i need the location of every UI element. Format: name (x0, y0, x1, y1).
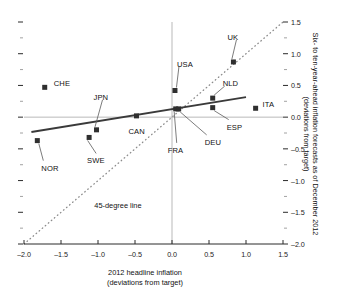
data-point-label: DEU (205, 138, 221, 147)
x-axis-title-line2: (deviations from target) (107, 278, 183, 287)
y-axis-title-line1: Six- to ten-year-ahead inflation forecas… (311, 33, 320, 236)
data-point-marker (134, 113, 139, 118)
data-point-label: ESP (227, 123, 243, 132)
x-axis-tick-label: –0.5 (128, 250, 142, 259)
data-point-label: CHE (54, 79, 70, 88)
x-axis-tick-label: –1.5 (54, 250, 68, 259)
label-leader-line (214, 111, 229, 120)
y-axis-tick-label: 1.5 (291, 18, 301, 27)
x-axis-tick-label: 0.5 (204, 250, 214, 259)
data-point-marker (210, 105, 215, 110)
data-point-marker (210, 96, 215, 101)
data-point-marker (94, 127, 99, 132)
axis-lines-and-ticks (18, 22, 288, 244)
chart-figure: –2.0–1.5–1.0–0.50.00.51.01.5 1.51.00.50.… (0, 0, 350, 306)
x-axis-title: 2012 headline inflation (deviations from… (0, 268, 290, 287)
label-leader-line (39, 144, 44, 161)
label-leader-line (180, 112, 207, 135)
data-point-marker (253, 106, 258, 111)
label-leader-line (95, 100, 103, 127)
label-leader-line (232, 40, 237, 59)
label-leader-line (174, 112, 177, 143)
data-point-label: JPN (94, 93, 109, 102)
data-point-marker (35, 138, 40, 143)
y-axis-title: Six- to ten-year-ahead inflation forecas… (301, 10, 320, 258)
data-point-marker (172, 88, 177, 93)
label-leader-line (88, 140, 97, 153)
x-axis-tick-label: –1.0 (91, 250, 105, 259)
data-point-label: NLD (223, 79, 239, 88)
forty-five-degree-line (24, 22, 283, 244)
data-point-marker (87, 135, 92, 140)
x-axis-tick-label: 1.5 (278, 250, 288, 259)
y-axis-tick-label: 0.5 (291, 81, 301, 90)
forty-five-degree-line-label: 45-degree line (94, 201, 141, 210)
x-axis-tick-label: 0.0 (167, 250, 177, 259)
x-axis-title-line1: 2012 headline inflation (108, 268, 182, 277)
data-point-label: FRA (168, 146, 184, 155)
x-axis-tick-label: –2.0 (17, 250, 31, 259)
data-point-label: NOR (41, 164, 58, 173)
y-axis-title-line2: (deviations from target) (301, 10, 310, 258)
data-point-label: USA (177, 60, 193, 69)
label-leader-line (176, 67, 179, 88)
data-point-label: CAN (128, 127, 144, 136)
data-point-label: ITA (263, 100, 275, 109)
data-point-label: SWE (87, 156, 105, 165)
data-point-marker (176, 106, 181, 111)
y-axis-tick-label: 0.0 (291, 113, 301, 122)
data-point-label: UK (227, 33, 238, 42)
x-axis-tick-label: 1.0 (241, 250, 251, 259)
data-point-marker (42, 85, 47, 90)
forty-five-degree-line-path (24, 22, 283, 244)
data-point-marker (231, 59, 236, 64)
y-axis-tick-label: 1.0 (291, 50, 301, 59)
